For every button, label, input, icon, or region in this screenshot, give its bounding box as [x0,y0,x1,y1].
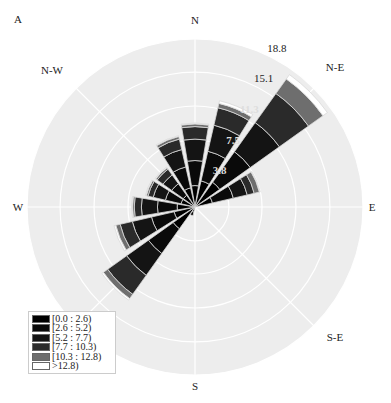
compass-label-s: S [192,380,198,392]
compass-label-n: N [191,14,199,26]
legend-swatch [32,334,50,342]
legend-swatch [32,324,50,332]
legend-label: >12.8) [52,361,78,371]
radial-tick-label: 7.5 [226,134,240,146]
compass-label-ne: N-E [326,61,345,73]
legend: [0.0 : 2.6)[2.6 : 5.2)[5.2 : 7.7)[7.7 : … [28,311,116,374]
legend-item: >12.8) [32,362,112,372]
wind-bar-segment-n [184,139,206,161]
legend-swatch [32,362,50,370]
legend-swatch [32,315,50,323]
radial-tick-label: 11.3 [240,103,259,115]
radial-tick-label: 3.8 [213,164,227,176]
radial-tick-label: 18.8 [267,42,287,54]
compass-label-e: E [369,201,376,213]
compass-label-w: W [13,201,24,213]
panel-label: A [14,13,22,25]
wind-bar-segment-w [134,197,142,217]
wind-bar-segment-n [182,127,209,140]
legend-swatch [32,343,50,351]
compass-label-se: S-E [327,331,344,343]
compass-label-nw: N-W [41,64,64,76]
legend-swatch [32,353,50,361]
wind-bar-segment-w [141,198,158,216]
radial-tick-label: 15.1 [254,72,273,84]
